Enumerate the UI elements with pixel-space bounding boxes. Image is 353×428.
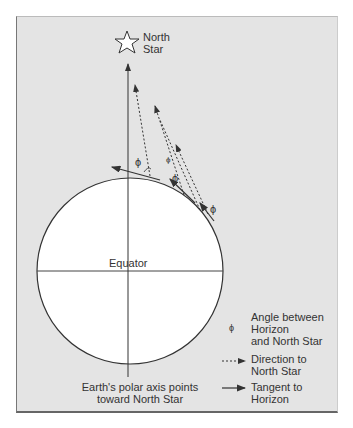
angle-label-4: ϕ — [210, 203, 216, 215]
direction-arrow-2 — [155, 106, 184, 195]
legend-angle-line2: Horizon — [251, 323, 324, 335]
north-star-icon — [115, 31, 139, 53]
legend-angle-line3: and North Star — [251, 335, 324, 347]
legend-direction-line1: Direction to — [251, 353, 307, 365]
legend-direction-line2: North Star — [251, 365, 307, 377]
north-star-label: North Star — [143, 31, 170, 55]
legend-angle-line1: Angle between — [251, 311, 324, 323]
angle-label-2: ϕ — [172, 172, 178, 184]
axis-caption: Earth's polar axis points toward North S… — [70, 381, 210, 405]
equator-label: Equator — [109, 257, 148, 269]
angle-label-1: ϕ — [135, 156, 141, 168]
axis-caption-line2: toward North Star — [70, 393, 210, 405]
legend-item-tangent: Tangent to Horizon — [251, 381, 302, 405]
angle-arc-1 — [144, 168, 151, 172]
north-star-label-line1: North — [143, 31, 170, 43]
legend-tangent-line1: Tangent to — [251, 381, 302, 393]
legend-item-angle: Angle between Horizon and North Star — [251, 311, 324, 347]
legend-tangent-line2: Horizon — [251, 393, 302, 405]
legend-phi-symbol: ϕ — [229, 322, 234, 334]
axis-caption-line1: Earth's polar axis points — [70, 381, 210, 393]
north-star-label-line2: Star — [143, 43, 170, 55]
angle-label-3: ϕ — [166, 154, 170, 166]
legend-item-direction: Direction to North Star — [251, 353, 307, 377]
